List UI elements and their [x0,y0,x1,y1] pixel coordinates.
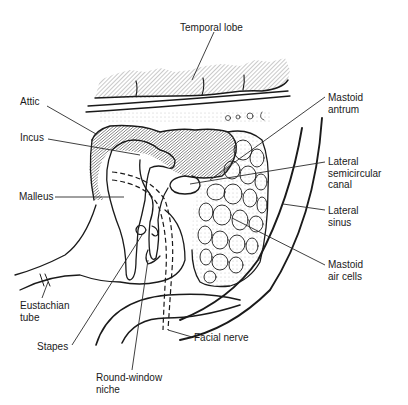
label-lateral-sinus: Lateral sinus [328,205,359,228]
label-round-window-niche: Round-window niche [96,372,162,395]
label-attic: Attic [20,96,39,108]
label-mastoid-air-cells: Mastoid air cells [328,259,363,282]
label-lateral-semicircular-canal: Lateral semicircular canal [328,156,381,191]
label-stapes: Stapes [37,341,68,353]
label-facial-nerve: Facial nerve [194,332,248,344]
label-incus: Incus [20,132,44,144]
ear-anatomy-diagram: Temporal lobe Attic Incus Malleus Eustac… [0,0,408,405]
label-malleus: Malleus [19,191,53,203]
label-mastoid-antrum: Mastoid antrum [328,92,363,115]
label-eustachian-tube: Eustachian tube [20,300,69,323]
label-temporal-lobe: Temporal lobe [180,22,243,34]
